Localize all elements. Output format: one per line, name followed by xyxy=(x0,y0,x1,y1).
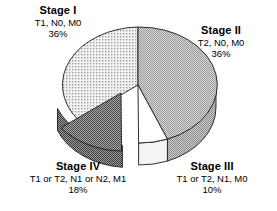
stage-1-percent: 36% xyxy=(4,28,112,39)
stage-1-descriptor: T1, N0, M0 xyxy=(4,17,112,28)
stage-4-percent: 18% xyxy=(8,184,148,195)
stage-1-name: Stage I xyxy=(4,4,112,17)
stage-2-percent: 36% xyxy=(168,48,274,59)
stage-3-descriptor: T1 or T2, N1, M0 xyxy=(150,173,274,184)
label-stage-3: Stage III T1 or T2, N1, M0 10% xyxy=(150,160,274,195)
pie-chart-figure: Stage I T1, N0, M0 36% Stage II T2, N0, … xyxy=(0,0,277,211)
stage-4-descriptor: T1 or T2, N1 or N2, M1 xyxy=(8,173,148,184)
label-stage-1: Stage I T1, N0, M0 36% xyxy=(4,4,112,39)
stage-4-name: Stage IV xyxy=(8,160,148,173)
label-stage-4: Stage IV T1 or T2, N1 or N2, M1 18% xyxy=(8,160,148,195)
stage-2-descriptor: T2, N0, M0 xyxy=(168,37,274,48)
stage-2-name: Stage II xyxy=(168,24,274,37)
label-stage-2: Stage II T2, N0, M0 36% xyxy=(168,24,274,59)
stage-3-name: Stage III xyxy=(150,160,274,173)
stage-3-percent: 10% xyxy=(150,184,274,195)
